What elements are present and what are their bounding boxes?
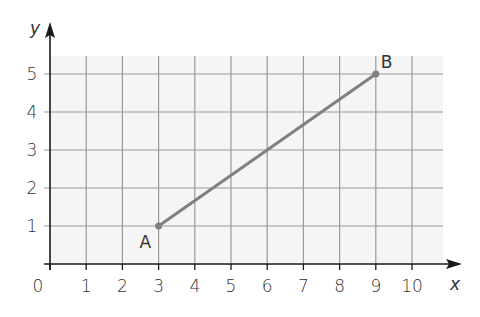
x-tick-label: 10	[401, 276, 423, 296]
y-axis-title: y	[29, 18, 41, 38]
point-b-marker	[372, 71, 379, 78]
grid-background	[50, 56, 443, 264]
x-tick-label: 8	[334, 276, 345, 296]
x-tick-label: 7	[298, 276, 309, 296]
x-tick-label: 2	[117, 276, 128, 296]
point-a-label: A	[140, 232, 152, 252]
coordinate-grid: 01234567891012345 AB x y	[0, 0, 480, 317]
y-tick-label: 3	[27, 140, 38, 160]
x-tick-label: 5	[226, 276, 237, 296]
x-tick-label: 3	[153, 276, 164, 296]
y-tick-label: 5	[27, 64, 38, 84]
x-tick-label: 6	[262, 276, 273, 296]
x-tick-label: 1	[81, 276, 92, 296]
point-b-label: B	[381, 52, 393, 72]
y-tick-label: 1	[27, 216, 38, 236]
point-a-marker	[155, 223, 162, 230]
x-tick-label: 9	[370, 276, 381, 296]
x-axis-title: x	[449, 274, 461, 294]
y-tick-label: 4	[27, 102, 38, 122]
x-tick-label: 0	[33, 276, 44, 296]
y-tick-label: 2	[27, 178, 38, 198]
x-tick-label: 4	[189, 276, 200, 296]
